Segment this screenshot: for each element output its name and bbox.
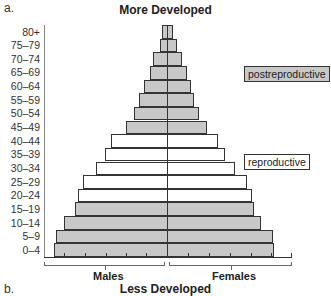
bar-female xyxy=(167,134,218,148)
bar-female xyxy=(167,162,235,176)
age-label: 70–74 xyxy=(0,53,40,66)
bar-female xyxy=(167,66,187,80)
reproductive-callout: reproductive xyxy=(244,154,310,170)
bar-female xyxy=(167,80,191,94)
age-label: 15–19 xyxy=(0,203,40,216)
bar-female xyxy=(167,189,252,203)
females-label: Females xyxy=(212,270,256,282)
age-label: 80+ xyxy=(0,26,40,39)
bar-male xyxy=(139,93,168,107)
bar-female xyxy=(167,243,274,257)
baseline xyxy=(44,257,292,258)
x-tick xyxy=(271,253,272,257)
bar-male xyxy=(150,66,168,80)
age-label: 40–44 xyxy=(0,135,40,148)
chart-title: More Developed xyxy=(0,3,331,17)
age-label: 30–34 xyxy=(0,162,40,175)
x-tick xyxy=(64,253,65,257)
bar-female xyxy=(167,202,254,216)
bar-female xyxy=(167,39,177,53)
bar-female xyxy=(167,121,207,135)
x-tick xyxy=(146,253,147,257)
bar-male xyxy=(56,230,168,244)
postreproductive-callout: postreproductive xyxy=(244,66,330,82)
x-tick xyxy=(85,253,86,257)
bar-male xyxy=(83,175,168,189)
age-label: 10–14 xyxy=(0,217,40,230)
age-label: 65–69 xyxy=(0,66,40,79)
bar-male xyxy=(126,121,168,135)
males-label: Males xyxy=(93,270,124,282)
bar-male xyxy=(96,162,168,176)
center-line xyxy=(167,25,168,257)
bar-female xyxy=(167,148,225,162)
x-tick xyxy=(106,253,107,257)
bar-male xyxy=(111,134,168,148)
age-label: 35–39 xyxy=(0,148,40,161)
bar-male xyxy=(78,189,168,203)
bar-female xyxy=(167,93,194,107)
age-label: 45–49 xyxy=(0,121,40,134)
age-label: 50–54 xyxy=(0,107,40,120)
bar-female xyxy=(167,52,182,66)
bar-female xyxy=(167,107,199,121)
bar-female xyxy=(167,230,273,244)
age-label: 25–29 xyxy=(0,176,40,189)
bar-male xyxy=(144,80,168,94)
x-tick xyxy=(251,253,252,257)
x-tick xyxy=(291,253,292,257)
age-label: 0–4 xyxy=(0,244,40,257)
bar-male xyxy=(64,216,168,230)
age-label: 5–9 xyxy=(0,230,40,243)
age-label: 75–79 xyxy=(0,39,40,52)
x-tick xyxy=(188,253,189,257)
bar-male xyxy=(54,243,168,257)
bar-female xyxy=(167,216,261,230)
x-tick xyxy=(209,253,210,257)
age-label: 20–24 xyxy=(0,189,40,202)
bottom-title: Less Developed xyxy=(0,282,331,296)
x-tick xyxy=(230,253,231,257)
y-axis-line xyxy=(44,25,45,257)
bar-male xyxy=(134,107,168,121)
bar-male xyxy=(75,202,168,216)
bar-female xyxy=(167,175,247,189)
x-tick xyxy=(126,253,127,257)
bar-male xyxy=(153,52,168,66)
age-label: 55–59 xyxy=(0,94,40,107)
age-label: 60–64 xyxy=(0,80,40,93)
bar-male xyxy=(105,148,168,162)
